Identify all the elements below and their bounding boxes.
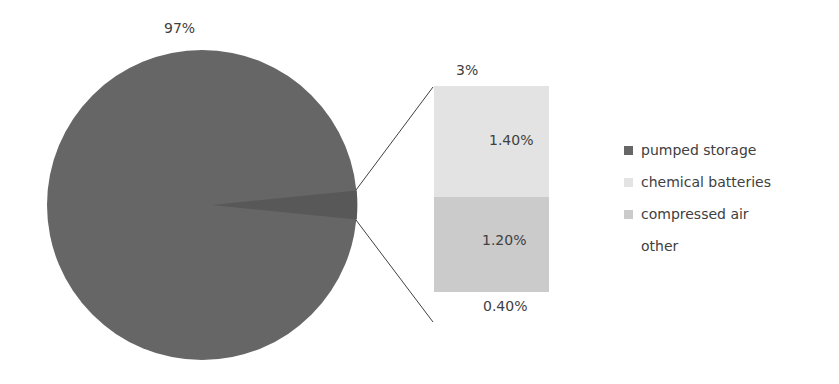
legend-item-other: other [624,230,771,262]
legend-label: compressed air [641,206,749,222]
label-chemical: 1.40% [489,132,533,148]
legend-swatch [624,146,633,155]
connector-line-top [356,87,433,190]
label-compressed: 1.20% [482,232,526,248]
label-97: 97% [164,20,195,36]
connector-line-bottom [356,220,433,322]
legend-swatch [624,242,633,251]
legend-label: other [641,238,678,254]
label-3: 3% [456,62,478,78]
legend-swatch [624,210,633,219]
label-other: 0.40% [483,298,527,314]
legend-label: pumped storage [641,142,756,158]
legend-swatch [624,178,633,187]
legend-label: chemical batteries [641,174,771,190]
legend-item-compressed-air: compressed air [624,198,771,230]
legend: pumped storage chemical batteries compre… [624,134,771,262]
legend-item-chemical-batteries: chemical batteries [624,166,771,198]
legend-item-pumped-storage: pumped storage [624,134,771,166]
